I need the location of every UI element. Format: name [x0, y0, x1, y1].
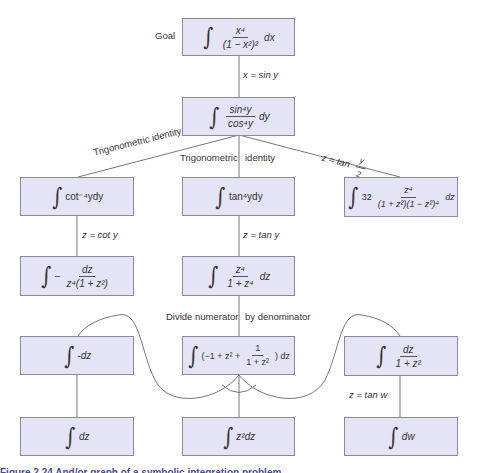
diagram-edges — [0, 0, 477, 473]
goal-label: Goal — [155, 30, 175, 41]
edge-label-divide-b: by denominator — [245, 311, 310, 322]
fraction: x⁴ (1 − x²)² — [220, 24, 261, 51]
integral-sign: ∫ — [223, 425, 233, 449]
edge-label-z-cot-y: z = cot y — [82, 229, 118, 240]
integral-sign: ∫ — [204, 25, 214, 49]
integral-sign: ∫ — [389, 425, 399, 449]
edge-label-divide-a: Divide numerator — [166, 311, 238, 322]
integral-sign: ∫ — [64, 344, 74, 368]
node-dw[interactable]: ∫ dw — [344, 417, 458, 456]
integral-sign: ∫ — [41, 264, 51, 288]
fraction: sin⁴y cos⁴y — [225, 103, 256, 130]
node-arctan[interactable]: ∫ dz 1 + z² — [344, 336, 458, 376]
node-dz[interactable]: ∫ dz — [20, 417, 134, 456]
integral-sign: ∫ — [208, 264, 218, 288]
node-cot-sub[interactable]: ∫ − dz z⁴(1 + z²) — [20, 256, 134, 296]
integral-sign: ∫ — [188, 344, 198, 368]
node-tan[interactable]: ∫ tan⁴ydy — [182, 177, 295, 216]
node-divided[interactable]: ∫ (−1 + z² + 1 1 + z² ) dz — [182, 336, 295, 375]
integral-sign: ∫ — [52, 185, 62, 209]
integral-sign: ∫ — [216, 185, 226, 209]
integral-sign: ∫ — [209, 105, 219, 129]
node-z2dz[interactable]: ∫ z²dz — [182, 417, 295, 456]
node-sin-cos[interactable]: ∫ sin⁴y cos⁴y dy — [182, 97, 295, 136]
edge-label-trig-identity-mid-b: identity — [245, 152, 275, 163]
fraction: dz z⁴(1 + z²) — [64, 263, 111, 290]
fraction: 1 1 + z² — [243, 342, 272, 369]
node-neg-dz[interactable]: ∫ -dz — [20, 336, 134, 375]
fraction: z⁴ 1 + z⁴ — [224, 263, 256, 290]
fraction: z⁴ (1 + z²)(1 − z²)⁴ — [375, 184, 442, 211]
integral-sign: ∫ — [376, 344, 386, 368]
figure-caption: Figure 2.24 And/or graph of a symbolic i… — [0, 463, 477, 473]
edge-label-z-tan-y: z = tan y — [243, 229, 279, 240]
integral-sign: ∫ — [349, 185, 359, 209]
edge-label-x-sin-y: x = sin y — [243, 69, 278, 80]
node-tan-sub[interactable]: ∫ z⁴ 1 + z⁴ dz — [182, 256, 295, 296]
edge-label-trig-identity-mid-a: Trigonometric — [180, 152, 238, 163]
node-goal[interactable]: ∫ x⁴ (1 − x²)² dx — [182, 18, 295, 56]
node-halfangle[interactable]: ∫ 32 z⁴ (1 + z²)(1 − z²)⁴ dz — [344, 177, 458, 217]
fraction: dz 1 + z² — [393, 343, 424, 370]
node-cot[interactable]: ∫ cot⁻⁴ydy — [20, 177, 134, 216]
edge-label-z-tan-w: z = tan w — [349, 389, 387, 400]
integral-sign: ∫ — [66, 425, 76, 449]
